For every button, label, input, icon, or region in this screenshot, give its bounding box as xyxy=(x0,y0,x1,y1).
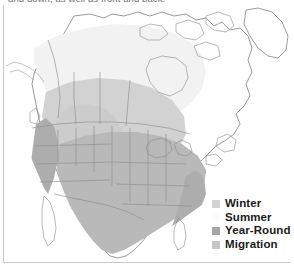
legend-item-year-round: Year-Round xyxy=(212,224,291,238)
legend-swatch-migration xyxy=(212,241,220,249)
frame-bottom-rule xyxy=(3,262,291,263)
legend-label-summer: Summer xyxy=(225,211,272,224)
legend-swatch-winter xyxy=(212,200,220,208)
legend-item-winter: Winter xyxy=(212,197,291,211)
legend-label-migration: Migration xyxy=(225,238,278,251)
shading-pacific-coast xyxy=(28,118,58,214)
map-legend: Winter Summer Year-Round Migration xyxy=(212,197,291,251)
caption-strip: and down, as well as front and back. xyxy=(0,0,294,7)
frame-left-rule xyxy=(3,5,4,263)
legend-swatch-year-round xyxy=(212,227,220,235)
legend-swatch-summer xyxy=(212,213,220,221)
legend-label-year-round: Year-Round xyxy=(225,224,291,237)
legend-label-winter: Winter xyxy=(225,197,261,210)
caption-text: and down, as well as front and back. xyxy=(8,0,165,4)
legend-item-summer: Summer xyxy=(212,211,291,225)
legend-item-migration: Migration xyxy=(212,238,291,252)
range-map-figure: and down, as well as front and back. xyxy=(0,0,294,277)
